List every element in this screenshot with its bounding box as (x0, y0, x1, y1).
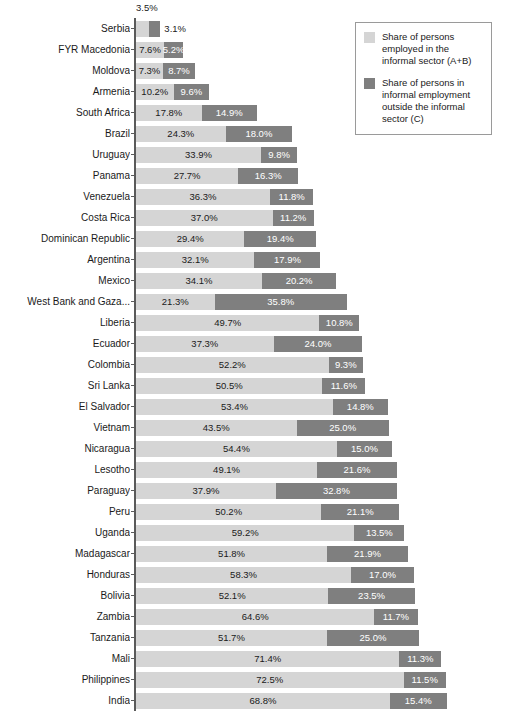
bar-row: Philippines72.5%11.5% (0, 669, 505, 690)
category-label: Moldova (0, 60, 130, 81)
category-label: Panama (0, 165, 130, 186)
category-label: Madagascar (0, 543, 130, 564)
axis-tick (131, 427, 135, 428)
bar-value-outside-informal-sector: 20.2% (286, 276, 313, 286)
bar-value-informal-sector: 59.2% (232, 528, 259, 538)
bar-segment-outside-informal-sector: 23.5% (328, 588, 415, 604)
stacked-bar: 49.1%21.6% (136, 462, 397, 478)
category-label: Colombia (0, 354, 130, 375)
bar-segment-outside-informal-sector: 19.4% (244, 231, 316, 247)
bar-value-informal-sector: 72.5% (256, 675, 283, 685)
bar-segment-outside-informal-sector: 20.2% (262, 273, 337, 289)
category-label: Sri Lanka (0, 375, 130, 396)
bar-segment-informal-sector: 21.3% (136, 294, 215, 310)
bar-value-outside-informal-sector: 25.0% (359, 633, 386, 643)
category-label: Vietnam (0, 417, 130, 438)
stacked-bar: 27.7%16.3% (136, 168, 298, 184)
stacked-bar: 52.1%23.5% (136, 588, 415, 604)
bar-row: Armenia10.2%9.6% (0, 81, 505, 102)
axis-tick (131, 595, 135, 596)
bar-segment-informal-sector: 34.1% (136, 273, 262, 289)
axis-tick (131, 469, 135, 470)
axis-tick (131, 259, 135, 260)
bar-segment-outside-informal-sector: 21.1% (321, 504, 399, 520)
bar-segment-informal-sector: 59.2% (136, 525, 354, 541)
axis-tick (131, 511, 135, 512)
category-label: Peru (0, 501, 130, 522)
bar-value-informal-sector: 58.3% (230, 570, 257, 580)
bar-row: Moldova7.3%8.7% (0, 60, 505, 81)
bar-segment-outside-informal-sector: 11.2% (273, 210, 314, 226)
bar-segment-informal-sector: 49.7% (136, 315, 319, 331)
bar-segment-outside-informal-sector: 25.0% (297, 420, 389, 436)
bar-segment-outside-informal-sector: 32.8% (276, 483, 397, 499)
stacked-bar: 3.5%3.1% (136, 21, 160, 37)
bar-segment-informal-sector: 36.3% (136, 189, 270, 205)
bar-value-informal-sector: 29.4% (177, 234, 204, 244)
category-label: Mali (0, 648, 130, 669)
bar-value-informal-sector: 21.3% (162, 297, 189, 307)
bar-value-outside-informal-sector: 21.1% (347, 507, 374, 517)
bar-value-informal-sector: 54.4% (223, 444, 250, 454)
bar-value-informal-sector: 7.6% (139, 45, 161, 55)
axis-tick (131, 301, 135, 302)
bar-value-outside-informal-sector: 8.7% (168, 66, 190, 76)
axis-tick (131, 70, 135, 71)
bar-value-outside-informal-sector: 19.4% (267, 234, 294, 244)
bar-value-outside-informal-sector: 11.6% (331, 381, 357, 391)
bar-value-outside-informal-sector: 18.0% (245, 129, 272, 139)
axis-tick (131, 280, 135, 281)
axis-tick (131, 322, 135, 323)
bar-value-informal-sector: 50.2% (215, 507, 242, 517)
bar-row: Vietnam43.5%25.0% (0, 417, 505, 438)
axis-tick (131, 406, 135, 407)
bar-segment-informal-sector: 37.0% (136, 210, 273, 226)
axis-tick (131, 385, 135, 386)
axis-tick (131, 700, 135, 701)
bar-value-informal-sector: 37.9% (192, 486, 219, 496)
axis-tick (131, 637, 135, 638)
bar-segment-outside-informal-sector: 10.8% (319, 315, 359, 331)
bar-segment-outside-informal-sector: 21.9% (327, 546, 408, 562)
bar-value-informal-sector: 36.3% (190, 192, 217, 202)
category-label: Dominican Republic (0, 228, 130, 249)
bar-value-informal-sector: 51.8% (218, 549, 245, 559)
bar-segment-informal-sector: 33.9% (136, 147, 261, 163)
bar-value-informal-sector: 37.0% (191, 213, 218, 223)
axis-tick (131, 154, 135, 155)
bar-segment-outside-informal-sector: 3.1% (149, 21, 160, 37)
bar-value-outside-informal-sector: 23.5% (358, 591, 385, 601)
stacked-bar: 33.9%9.8% (136, 147, 297, 163)
bar-segment-outside-informal-sector: 17.0% (351, 567, 414, 583)
bar-row: Uruguay33.9%9.8% (0, 144, 505, 165)
bar-segment-outside-informal-sector: 13.5% (354, 525, 404, 541)
bar-segment-outside-informal-sector: 16.3% (238, 168, 298, 184)
bar-segment-informal-sector: 27.7% (136, 168, 238, 184)
bar-segment-outside-informal-sector: 9.3% (329, 357, 363, 373)
bar-row: Dominican Republic29.4%19.4% (0, 228, 505, 249)
bar-segment-informal-sector: 10.2% (136, 84, 174, 100)
bar-value-informal-sector: 68.8% (249, 696, 276, 706)
bar-value-informal-sector: 37.3% (191, 339, 218, 349)
axis-tick (131, 616, 135, 617)
axis-tick (131, 490, 135, 491)
stacked-bar: 51.8%21.9% (136, 546, 408, 562)
bar-segment-outside-informal-sector: 15.0% (337, 441, 392, 457)
bar-row: Liberia49.7%10.8% (0, 312, 505, 333)
category-label: Argentina (0, 249, 130, 270)
bar-segment-informal-sector: 53.4% (136, 399, 333, 415)
category-label: Honduras (0, 564, 130, 585)
bar-value-informal-sector: 10.2% (141, 87, 168, 97)
stacked-bar: 54.4%15.0% (136, 441, 392, 457)
bar-segment-informal-sector: 32.1% (136, 252, 254, 268)
bar-segment-informal-sector: 3.5% (136, 21, 149, 37)
bar-segment-informal-sector: 52.1% (136, 588, 328, 604)
bar-value-informal-sector: 27.7% (174, 171, 201, 181)
bar-row: Paraguay37.9%32.8% (0, 480, 505, 501)
bar-segment-outside-informal-sector: 11.6% (322, 378, 365, 394)
category-label: West Bank and Gaza... (0, 291, 130, 312)
bar-rows: Serbia3.5%3.1%FYR Macedonia7.6%5.2%Moldo… (0, 18, 505, 711)
axis-tick (131, 196, 135, 197)
category-label: Mexico (0, 270, 130, 291)
bar-row: Peru50.2%21.1% (0, 501, 505, 522)
